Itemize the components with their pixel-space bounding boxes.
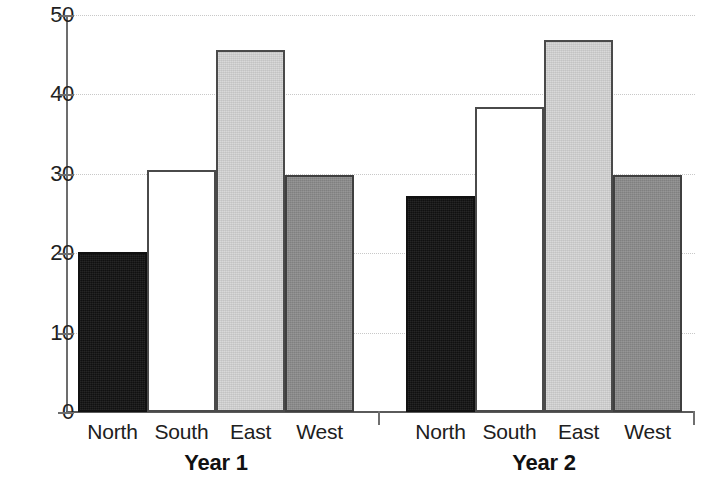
group-label-year-1: Year 1 [78,450,354,476]
x-axis-tick-right-end [693,411,695,425]
bar-group-year-1 [78,15,363,412]
cat-label-year2-north: North [406,420,475,444]
group-label-year-2: Year 2 [406,450,682,476]
cat-label-year1-west: West [285,420,354,444]
bar-year2-north[interactable] [406,196,475,412]
cat-label-year1-north: North [78,420,147,444]
cat-label-year2-west: West [613,420,682,444]
bar-year2-west[interactable] [613,175,682,412]
bar-group-year-2 [406,15,691,412]
bar-year1-east[interactable] [216,50,285,412]
x-axis-tick-group-separator [378,411,380,425]
bar-year1-north[interactable] [78,252,147,412]
cat-label-year1-south: South [147,420,216,444]
cat-label-year2-east: East [544,420,613,444]
bar-year2-south[interactable] [475,107,544,412]
plot-area [68,15,695,412]
cat-label-year1-east: East [216,420,285,444]
bar-chart: 50 40 30 20 10 0 [0,0,710,484]
bar-year1-west[interactable] [285,175,354,412]
y-tick-mark-0 [58,412,74,414]
bar-year1-south[interactable] [147,170,216,412]
cat-label-year2-south: South [475,420,544,444]
bar-year2-east[interactable] [544,40,613,412]
